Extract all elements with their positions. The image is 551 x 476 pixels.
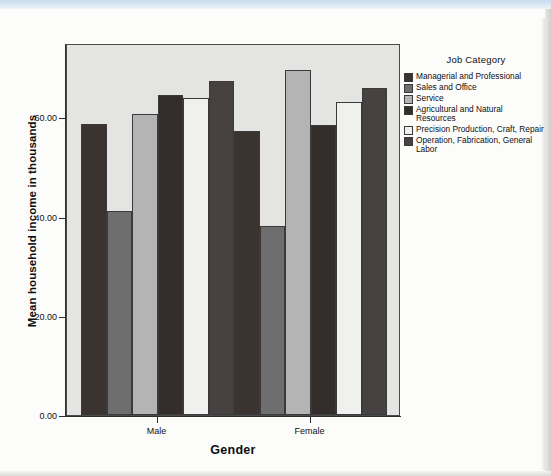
x-axis-tick bbox=[157, 417, 158, 423]
bars-container bbox=[67, 45, 399, 415]
y-axis-tick-label: 40.00 bbox=[34, 213, 57, 223]
plot-area bbox=[66, 44, 400, 416]
bar bbox=[158, 95, 184, 415]
legend-item-label: Agricultural and Natural Resources bbox=[416, 105, 544, 124]
y-axis-tick-label: 20.00 bbox=[34, 312, 57, 322]
legend-item[interactable]: Sales and Office bbox=[404, 83, 544, 93]
bar bbox=[209, 81, 235, 415]
bar bbox=[285, 70, 311, 415]
bar bbox=[260, 226, 286, 415]
legend-swatch-icon bbox=[404, 73, 413, 82]
y-axis-tick-label: 60.00 bbox=[34, 113, 57, 123]
legend-item-label: Managerial and Professional bbox=[416, 72, 521, 81]
x-axis-tick-label: Male bbox=[147, 426, 167, 436]
y-axis-labels: 0.0020.0040.0060.00 bbox=[0, 9, 57, 471]
y-axis-tick bbox=[59, 118, 66, 119]
scanned-page: Mean household income in thousands 0.002… bbox=[0, 0, 551, 476]
bar bbox=[132, 114, 158, 415]
legend-item-label: Precision Production, Craft, Repair bbox=[416, 125, 544, 134]
bar bbox=[234, 131, 260, 415]
x-axis-tick bbox=[310, 417, 311, 423]
x-axis-line bbox=[65, 416, 401, 417]
legend-item[interactable]: Agricultural and Natural Resources bbox=[404, 105, 544, 124]
y-axis-tick bbox=[59, 218, 66, 219]
legend-item[interactable]: Precision Production, Craft, Repair bbox=[404, 125, 544, 135]
y-axis-tick-label: 0.00 bbox=[39, 411, 57, 421]
y-axis-tick bbox=[59, 317, 66, 318]
bar bbox=[81, 124, 107, 415]
bar bbox=[107, 211, 133, 415]
y-axis-tick bbox=[59, 416, 66, 417]
legend-title: Job Category bbox=[408, 54, 544, 65]
bar bbox=[336, 102, 362, 415]
legend-swatch-icon bbox=[404, 137, 413, 146]
page-right-edge bbox=[545, 9, 551, 476]
page-bottom-edge bbox=[0, 471, 551, 476]
bar bbox=[311, 125, 337, 415]
legend-item[interactable]: Service bbox=[404, 94, 544, 104]
legend: Job Category Managerial and Professional… bbox=[404, 54, 544, 156]
legend-item[interactable]: Operation, Fabrication, General Labor bbox=[404, 136, 544, 155]
bar-chart: Mean household income in thousands 0.002… bbox=[0, 9, 545, 471]
legend-item-label: Operation, Fabrication, General Labor bbox=[416, 136, 544, 155]
legend-item-label: Sales and Office bbox=[416, 83, 477, 92]
x-axis-tick-label: Female bbox=[294, 426, 324, 436]
x-axis-title: Gender bbox=[66, 443, 400, 457]
page-top-band bbox=[0, 0, 551, 9]
legend-item[interactable]: Managerial and Professional bbox=[404, 72, 544, 82]
legend-swatch-icon bbox=[404, 95, 413, 104]
legend-swatch-icon bbox=[404, 126, 413, 135]
legend-swatch-icon bbox=[404, 106, 413, 115]
bar bbox=[183, 98, 209, 415]
legend-item-label: Service bbox=[416, 94, 444, 103]
legend-items: Managerial and ProfessionalSales and Off… bbox=[404, 72, 544, 155]
legend-swatch-icon bbox=[404, 84, 413, 93]
bar bbox=[362, 88, 388, 415]
